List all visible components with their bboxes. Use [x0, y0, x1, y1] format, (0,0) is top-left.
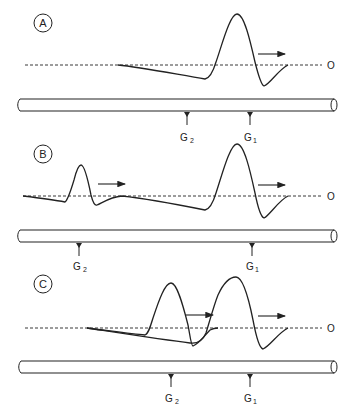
electrode-g1: G 1	[244, 112, 257, 144]
electrode-g1: G 1	[244, 374, 257, 405]
action-potential-wave	[23, 144, 288, 218]
panel-b: B O G 2 G 1	[18, 144, 337, 273]
electrode-g2: G 2	[180, 112, 194, 144]
nerve-fiber	[18, 230, 337, 242]
electrode-label: G	[180, 132, 188, 143]
panel-a: A O G 2 G 1	[18, 14, 337, 144]
nerve-fiber	[19, 361, 337, 373]
electrode-g2: G 2	[73, 243, 87, 273]
panel-c: C O G 2 G 1	[19, 275, 337, 405]
nerve-conduction-diagram: A O G 2 G 1 B O	[0, 0, 354, 411]
electrode-label: G	[244, 393, 252, 404]
electrode-g1: G 1	[246, 243, 259, 273]
panel-label: C	[39, 278, 47, 290]
electrode-subscript: 1	[253, 137, 257, 144]
electrode-subscript: 1	[253, 398, 257, 405]
zero-label: O	[327, 60, 335, 71]
panel-label: B	[39, 148, 46, 160]
electrode-label: G	[73, 261, 81, 272]
electrode-label: G	[165, 393, 173, 404]
electrode-subscript: 2	[83, 266, 87, 273]
action-potential-wave	[118, 14, 288, 86]
electrode-subscript: 2	[190, 137, 194, 144]
action-potential-wave-g1	[87, 277, 288, 349]
electrode-label: G	[244, 132, 252, 143]
zero-label: O	[327, 323, 335, 334]
panel-label: A	[39, 17, 47, 29]
electrode-g2: G 2	[165, 374, 179, 405]
electrode-label: G	[246, 261, 254, 272]
electrode-subscript: 1	[255, 266, 259, 273]
zero-label: O	[327, 191, 335, 202]
nerve-fiber	[18, 99, 337, 111]
electrode-subscript: 2	[175, 398, 179, 405]
